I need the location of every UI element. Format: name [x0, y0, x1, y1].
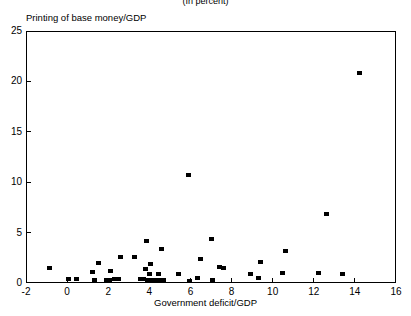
y-axis-tick-label: 10 [2, 177, 22, 187]
x-axis-tick-label: 4 [137, 287, 161, 297]
x-axis-tick-label: 6 [178, 287, 202, 297]
x-axis-tick-label: 10 [261, 287, 285, 297]
x-axis-tick [231, 278, 232, 283]
figure-supertitle: (In percent) [0, 0, 411, 6]
y-axis-tick-label: 25 [2, 26, 22, 36]
y-axis-tick [26, 232, 31, 233]
plot-area [26, 31, 396, 283]
y-axis-title: Printing of base money/GDP [26, 12, 146, 23]
y-axis-tick-label: 20 [2, 76, 22, 86]
x-axis-tick [354, 278, 355, 283]
y-axis-tick [26, 182, 31, 183]
x-axis-tick-label: 8 [220, 287, 244, 297]
x-axis-tick [149, 278, 150, 283]
x-axis-tick-label: 16 [384, 287, 408, 297]
x-axis-tick-label: 14 [343, 287, 367, 297]
y-axis-tick [26, 81, 31, 82]
x-axis-tick [190, 278, 191, 283]
x-axis-tick [67, 278, 68, 283]
scatter-plot-figure: (In percent) Printing of base money/GDP … [0, 0, 411, 316]
y-axis-tick [26, 131, 31, 132]
x-axis-tick-label: 12 [302, 287, 326, 297]
x-axis-tick [313, 278, 314, 283]
y-axis-tick-label: 5 [2, 228, 22, 238]
x-axis-tick [108, 278, 109, 283]
x-axis-tick [272, 278, 273, 283]
x-axis-title: Government deficit/GDP [0, 297, 411, 308]
x-axis-tick-label: 0 [55, 287, 79, 297]
x-axis-tick-label: 2 [96, 287, 120, 297]
y-axis-tick-label: 15 [2, 127, 22, 137]
x-axis-tick-label: -2 [14, 287, 38, 297]
